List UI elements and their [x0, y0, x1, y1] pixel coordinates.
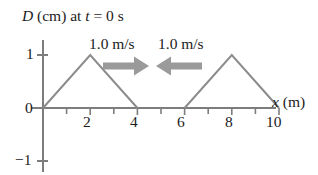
x-tick-marks [67, 108, 279, 115]
x-tick-label-10: 10 [266, 114, 282, 130]
x-axis-title-unit: (m) [283, 93, 305, 110]
x-tick-label-8: 8 [225, 114, 233, 130]
velocity-arrow-left-icon [156, 57, 202, 76]
velocity-arrow-right-icon [103, 57, 149, 76]
x-tick-label-4: 4 [130, 114, 138, 130]
x-tick-label-6: 6 [177, 114, 185, 130]
y-tick-label-0: 0 [25, 100, 33, 116]
speed-label-left: 1.0 m/s [158, 36, 204, 52]
plot-canvas [0, 0, 318, 175]
wave-pulse-figure: D (cm) at t = 0 s [0, 0, 318, 175]
y-tick-label-1: 1 [26, 46, 34, 62]
y-tick-label-neg1: −1 [15, 152, 32, 168]
x-axis-title: x (m) [272, 94, 305, 110]
speed-label-right: 1.0 m/s [89, 36, 135, 52]
x-tick-label-2: 2 [83, 114, 91, 130]
x-axis-title-var: x [272, 93, 279, 110]
